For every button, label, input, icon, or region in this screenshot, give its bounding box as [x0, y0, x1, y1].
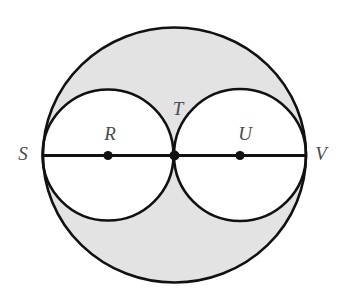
- center-dot-R: [103, 151, 112, 160]
- figure-container: S R T U V: [0, 0, 342, 295]
- tangent-point-dot-T: [170, 151, 180, 161]
- center-dot-U: [235, 151, 244, 160]
- label-R: R: [103, 123, 116, 144]
- geometry-diagram: S R T U V: [0, 0, 342, 295]
- label-T: T: [173, 98, 185, 119]
- label-S: S: [18, 143, 28, 164]
- label-U: U: [238, 123, 253, 144]
- shaded-region: [0, 0, 342, 295]
